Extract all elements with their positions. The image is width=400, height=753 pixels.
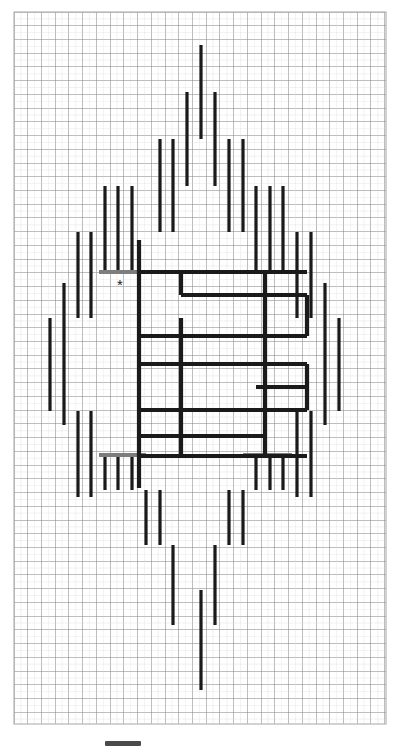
scale-bar [105, 741, 141, 746]
diffraction-grid-figure: * [0, 0, 400, 753]
figure-canvas: * [0, 0, 400, 753]
marker-layer: * [117, 276, 123, 293]
asterisk-marker: * [117, 276, 123, 293]
